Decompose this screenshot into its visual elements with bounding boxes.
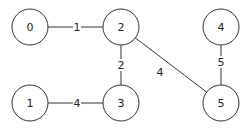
edge-weight-label: 4 (157, 66, 164, 79)
node-label: 1 (27, 97, 34, 110)
node-label: 0 (27, 21, 34, 34)
graph-node-3: 3 (103, 85, 139, 121)
graph-node-4: 4 (203, 9, 239, 45)
edge-weight-label: 5 (218, 56, 225, 69)
graph-node-1: 1 (12, 85, 48, 121)
graph-node-5: 5 (203, 85, 239, 121)
node-label: 4 (218, 21, 225, 34)
node-label: 2 (118, 21, 125, 34)
edge-weight-label: 4 (74, 97, 81, 110)
edge-2-5 (121, 27, 221, 103)
node-label: 3 (118, 97, 125, 110)
node-label: 5 (218, 97, 225, 110)
weighted-graph: 12454 012345 (0, 0, 248, 130)
edge-weight-label: 1 (74, 21, 81, 34)
graph-node-0: 0 (12, 9, 48, 45)
graph-node-2: 2 (103, 9, 139, 45)
edge-weight-label: 2 (118, 59, 125, 72)
nodes-layer: 012345 (12, 9, 239, 121)
